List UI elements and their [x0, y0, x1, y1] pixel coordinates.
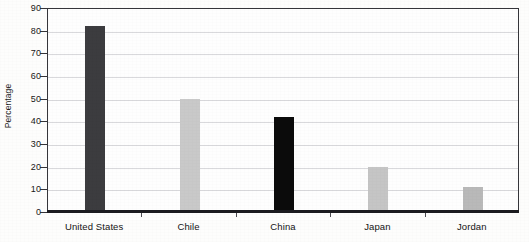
bar: [180, 99, 200, 212]
y-axis-tick: [40, 212, 47, 213]
plot-area: [47, 8, 519, 212]
y-axis-tick-label: 0: [36, 207, 41, 217]
y-axis-tick-labels: 0102030405060708090: [16, 0, 44, 212]
y-axis-tick-label: 10: [31, 184, 41, 194]
x-axis-tick-label: Japan: [364, 221, 390, 232]
y-axis-title: Percentage: [0, 0, 16, 212]
gridline: [48, 77, 518, 78]
gridline: [48, 100, 518, 101]
x-axis-tick-label: United States: [65, 221, 123, 232]
x-axis-tick-label: China: [270, 221, 295, 232]
y-axis-tick-label: 80: [31, 26, 41, 36]
x-axis-tick-label: Jordan: [457, 221, 487, 232]
bar: [274, 117, 294, 212]
y-axis-tick-label: 30: [31, 139, 41, 149]
x-axis-tick: [330, 213, 331, 217]
y-axis-tick-label: 50: [31, 94, 41, 104]
bar-chart: Percentage 0102030405060708090 United St…: [0, 0, 529, 242]
gridline: [48, 54, 518, 55]
x-axis-tick-label: Chile: [178, 221, 200, 232]
bar: [85, 26, 105, 212]
x-axis-line: [47, 210, 519, 213]
x-axis-tick: [236, 213, 237, 217]
x-axis-tick-labels: United StatesChileChinaJapanJordan: [47, 221, 519, 242]
y-axis-tick-label: 90: [31, 3, 41, 13]
y-axis-tick-label: 70: [31, 48, 41, 58]
y-axis-tick-label: 40: [31, 116, 41, 126]
y-axis-tick-label: 20: [31, 162, 41, 172]
y-axis-tick-label: 60: [31, 71, 41, 81]
bar: [463, 187, 483, 212]
x-axis-tick: [141, 213, 142, 217]
y-axis-title-text: Percentage: [3, 84, 13, 128]
bar: [368, 167, 388, 212]
x-axis-tick: [425, 213, 426, 217]
gridline: [48, 32, 518, 33]
